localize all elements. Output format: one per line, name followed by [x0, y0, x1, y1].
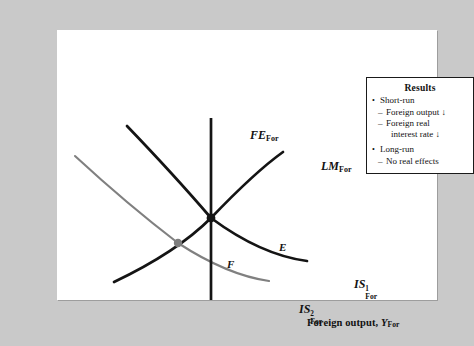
results-item-text: Foreign output ↓: [386, 107, 446, 117]
dash-icon: –: [378, 118, 383, 129]
curve-label-is1-name: IS: [354, 277, 365, 291]
results-group-head-text: Long-run: [380, 144, 414, 154]
bullet-icon: •: [372, 95, 375, 107]
curve-label-is2: IS2For: [299, 302, 325, 317]
curve-lm-path: [114, 152, 283, 282]
results-item-text: Foreign real: [386, 118, 430, 128]
results-item: –No real effects: [372, 156, 468, 167]
results-item: –Foreign real: [372, 118, 468, 129]
dash-icon: –: [378, 156, 383, 167]
results-group-head: •Long-run: [372, 144, 468, 156]
results-item-continuation: interest rate ↓: [372, 129, 468, 140]
x-axis-subscript: For: [388, 320, 400, 329]
dash-icon: –: [378, 107, 383, 118]
point-label-e: E: [279, 241, 286, 253]
results-item-text: No real effects: [386, 156, 439, 166]
curve-label-fe-sub: For: [266, 134, 278, 143]
point-label-f: F: [227, 258, 234, 270]
results-box: Results •Short-run –Foreign output ↓ –Fo…: [366, 77, 474, 174]
curve-label-fe-name: FE: [250, 128, 266, 142]
point-f-marker: [174, 239, 182, 247]
results-group-head-text: Short-run: [380, 95, 415, 105]
results-group-head: •Short-run: [372, 95, 468, 107]
curve-label-lm-sub: For: [339, 165, 351, 174]
curve-label-lm-name: LM: [321, 159, 339, 173]
results-item-text: interest rate ↓: [391, 129, 440, 139]
curve-label-fe: FEFor: [250, 128, 278, 143]
results-group-short-run: •Short-run –Foreign output ↓ –Foreign re…: [372, 95, 468, 140]
curve-label-is2-sub: For: [310, 317, 322, 326]
results-item: –Foreign output ↓: [372, 107, 468, 118]
curve-label-is2-name: IS: [299, 302, 310, 316]
plot-area: FEFor LMFor IS1For IS2For E F Results •S…: [57, 30, 437, 300]
results-title: Results: [372, 82, 468, 93]
point-e-marker: [207, 214, 216, 223]
curve-label-is1: IS1For: [354, 277, 380, 292]
results-group-long-run: •Long-run –No real effects: [372, 144, 468, 167]
curve-label-lm: LMFor: [321, 159, 351, 174]
bullet-icon: •: [372, 144, 375, 156]
curve-label-is1-sub: For: [365, 292, 377, 301]
